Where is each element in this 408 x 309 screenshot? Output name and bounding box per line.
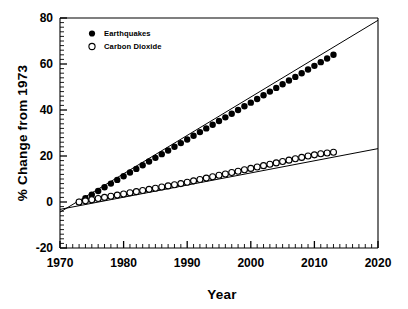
data-point bbox=[127, 169, 133, 175]
data-point bbox=[146, 158, 152, 164]
data-point bbox=[159, 184, 165, 190]
x-tick-label: 2020 bbox=[365, 256, 392, 270]
legend-label-earthquakes: Earthquakes bbox=[104, 29, 151, 38]
data-point bbox=[101, 184, 107, 190]
data-point bbox=[210, 174, 216, 180]
data-point bbox=[133, 189, 139, 195]
data-point bbox=[95, 188, 101, 194]
data-point bbox=[273, 160, 279, 166]
data-point bbox=[165, 183, 171, 189]
chart-figure: -20020406080 197019801990200020102020 % … bbox=[0, 0, 408, 309]
x-tick-label: 2010 bbox=[301, 256, 328, 270]
data-point bbox=[114, 177, 120, 183]
x-tick-label: 1980 bbox=[110, 256, 137, 270]
data-point bbox=[165, 147, 171, 153]
data-point bbox=[171, 144, 177, 150]
data-point bbox=[133, 166, 139, 172]
y-tick-label: 40 bbox=[40, 103, 54, 117]
data-point bbox=[280, 159, 286, 165]
data-point bbox=[248, 165, 254, 171]
scatter-plot: -20020406080 197019801990200020102020 % … bbox=[0, 0, 408, 309]
data-point bbox=[241, 167, 247, 173]
data-point bbox=[203, 125, 209, 131]
data-point bbox=[235, 107, 241, 113]
data-point bbox=[139, 162, 145, 168]
data-point bbox=[286, 77, 292, 83]
x-tick-label: 2000 bbox=[237, 256, 264, 270]
data-point bbox=[108, 180, 114, 186]
data-point bbox=[292, 74, 298, 80]
data-point bbox=[197, 176, 203, 182]
data-point bbox=[260, 92, 266, 98]
data-point bbox=[102, 194, 108, 200]
data-point bbox=[267, 161, 273, 167]
legend-label-carbon-dioxide: Carbon Dioxide bbox=[104, 42, 162, 51]
data-point bbox=[184, 136, 190, 142]
data-point bbox=[121, 191, 127, 197]
data-point bbox=[76, 199, 82, 205]
data-point bbox=[279, 81, 285, 87]
data-point bbox=[305, 66, 311, 72]
data-point bbox=[261, 163, 267, 169]
data-point bbox=[311, 152, 317, 158]
data-point bbox=[152, 185, 158, 191]
data-point bbox=[241, 103, 247, 109]
data-point bbox=[95, 196, 101, 202]
data-point bbox=[216, 172, 222, 178]
data-point bbox=[299, 154, 305, 160]
data-point bbox=[159, 151, 165, 157]
data-point bbox=[114, 192, 120, 198]
data-point bbox=[152, 155, 158, 161]
legend-marker-carbon-dioxide-icon bbox=[89, 43, 95, 49]
data-point bbox=[190, 133, 196, 139]
data-point bbox=[197, 129, 203, 135]
data-point bbox=[82, 198, 88, 204]
data-point bbox=[254, 164, 260, 170]
data-point bbox=[292, 156, 298, 162]
data-point bbox=[330, 149, 336, 155]
data-point bbox=[203, 175, 209, 181]
data-point bbox=[324, 55, 330, 61]
data-point bbox=[222, 171, 228, 177]
data-point bbox=[286, 157, 292, 163]
data-point bbox=[146, 186, 152, 192]
data-point bbox=[235, 168, 241, 174]
x-tick-label: 1990 bbox=[174, 256, 201, 270]
data-point bbox=[330, 52, 336, 58]
data-point bbox=[324, 150, 330, 156]
data-point bbox=[229, 170, 235, 176]
data-point bbox=[127, 190, 133, 196]
data-point bbox=[108, 193, 114, 199]
y-tick-label: 0 bbox=[46, 195, 53, 209]
data-point bbox=[318, 151, 324, 157]
y-axis-title: % Change from 1973 bbox=[15, 65, 30, 202]
data-point bbox=[305, 153, 311, 159]
data-point bbox=[171, 182, 177, 188]
data-point bbox=[178, 140, 184, 146]
data-point bbox=[248, 99, 254, 105]
y-tick-label: 80 bbox=[40, 11, 54, 25]
data-point bbox=[318, 59, 324, 65]
data-point bbox=[311, 63, 317, 69]
y-tick-label: 60 bbox=[40, 57, 54, 71]
data-point bbox=[191, 178, 197, 184]
data-point bbox=[254, 96, 260, 102]
x-axis-title: Year bbox=[207, 287, 237, 302]
y-tick-label: 20 bbox=[40, 149, 54, 163]
data-point bbox=[267, 88, 273, 94]
data-point bbox=[298, 70, 304, 76]
legend-marker-earthquakes-icon bbox=[89, 30, 95, 36]
data-point bbox=[229, 110, 235, 116]
data-point bbox=[222, 114, 228, 120]
data-point bbox=[178, 181, 184, 187]
data-point bbox=[120, 173, 126, 179]
data-point bbox=[273, 85, 279, 91]
data-point bbox=[216, 118, 222, 124]
data-point bbox=[184, 179, 190, 185]
y-tick-label: -20 bbox=[36, 241, 54, 255]
x-tick-label: 1970 bbox=[47, 256, 74, 270]
data-point bbox=[209, 122, 215, 128]
data-point bbox=[89, 197, 95, 203]
data-point bbox=[140, 188, 146, 194]
